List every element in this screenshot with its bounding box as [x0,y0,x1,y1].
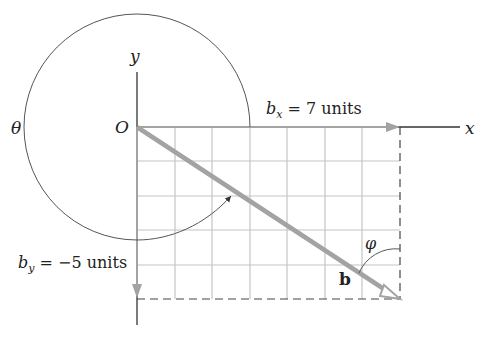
theta-arc-arrow [137,196,231,240]
vector-b-label: b [339,269,351,289]
origin-label: O [115,117,129,137]
x-axis-label: x [465,118,475,138]
vector-diagram: θ O y x bx = 7 units by = −5 units φ b [0,0,487,337]
vector-b [137,127,400,299]
by-label: by = −5 units [18,253,127,275]
theta-label: θ [11,118,21,138]
bx-label: bx = 7 units [266,99,362,121]
y-axis-label: y [129,46,140,66]
phi-label: φ [365,234,377,253]
